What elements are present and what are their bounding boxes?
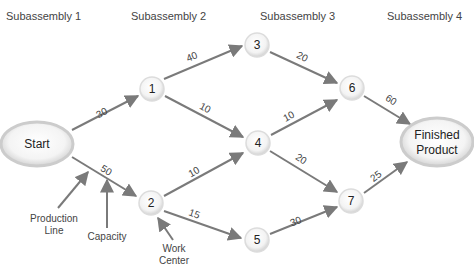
node-1-label: 1 — [149, 82, 156, 96]
node-7-label: 7 — [348, 194, 355, 208]
node-2: 2 — [139, 191, 163, 215]
edge-label-3-6: 20 — [295, 49, 310, 64]
edge-label-4-7: 20 — [294, 151, 310, 166]
node-4: 4 — [246, 131, 270, 155]
finished-product-label-line2: Product — [416, 143, 458, 157]
node-6: 6 — [340, 76, 364, 100]
edge-label-1-4: 10 — [198, 100, 213, 115]
annotation-work-center-2: Center — [159, 255, 190, 266]
node-3: 3 — [245, 33, 269, 57]
node-5-label: 5 — [254, 233, 261, 247]
edge-label-2-5: 15 — [187, 207, 202, 221]
node-2-label: 2 — [148, 196, 155, 210]
edge-label-5-7: 30 — [288, 214, 303, 229]
node-6-label: 6 — [349, 81, 356, 95]
edge-label-4-6: 10 — [281, 109, 296, 124]
annotation-work-center-1: Work — [162, 243, 186, 254]
edge-2-5 — [164, 211, 241, 238]
annotation-capacity: Capacity — [88, 231, 127, 242]
edge-4-6 — [271, 100, 337, 135]
network-diagram: 30 50 40 10 10 15 20 10 20 30 60 25 Star… — [0, 0, 474, 271]
annotation-production-line-1: Production — [30, 213, 78, 224]
edge-5-7 — [270, 207, 337, 234]
node-1: 1 — [140, 77, 164, 101]
edge-label-6-finish: 60 — [384, 92, 400, 107]
annotation-production-line-2: Line — [45, 225, 64, 236]
edge-1-3 — [164, 46, 242, 79]
finished-product-label-line1: Finished — [414, 128, 459, 142]
start-node: Start — [1, 122, 73, 166]
annotation-arrow-production-line — [58, 172, 88, 208]
edge-label-1-3: 40 — [185, 49, 200, 64]
annotation-arrow-work-center — [158, 218, 173, 240]
node-5: 5 — [245, 228, 269, 252]
node-4-label: 4 — [255, 136, 262, 150]
node-3-label: 3 — [254, 38, 261, 52]
start-node-label: Start — [24, 137, 50, 151]
edge-2-4 — [164, 153, 243, 196]
finished-product-node: Finished Product — [401, 118, 473, 166]
node-7: 7 — [339, 189, 363, 213]
